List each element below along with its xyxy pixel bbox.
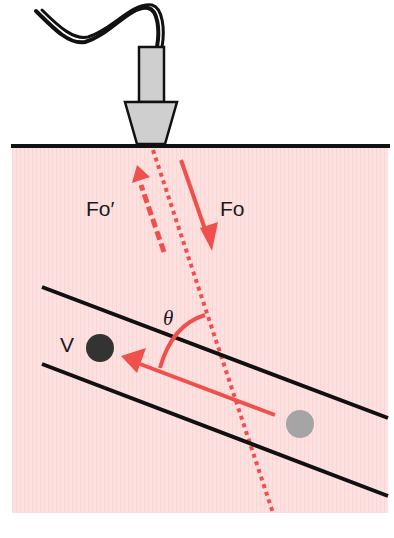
tissue-region [12, 147, 388, 513]
reflected-frequency-label: Fo′ [86, 197, 115, 220]
angle-label: θ [163, 306, 173, 330]
blood-cell-origin [286, 410, 314, 438]
transmitted-frequency-label: Fo [220, 197, 245, 220]
probe-body [139, 47, 164, 102]
velocity-label: V [60, 333, 74, 356]
doppler-diagram: Fo′ Fo θ V [0, 0, 394, 538]
cable-icon [36, 5, 163, 47]
blood-cell-moving [86, 334, 114, 362]
probe-head [125, 102, 177, 144]
